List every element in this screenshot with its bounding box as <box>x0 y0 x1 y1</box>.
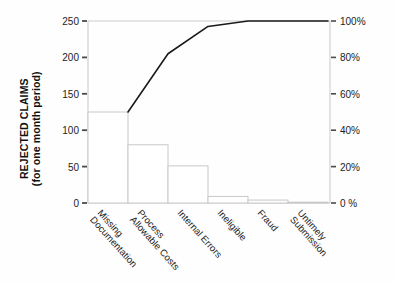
y-tick-label-0: 0 <box>73 198 79 209</box>
bar-0[interactable] <box>88 112 128 203</box>
bar-4[interactable] <box>248 200 288 203</box>
y-tick-label-1: 50 <box>68 161 79 172</box>
y-tick-label-2: 100 <box>62 125 79 136</box>
y2-tick-label-1: 20% <box>340 161 360 172</box>
y-tick-label-3: 150 <box>62 88 79 99</box>
y2-tick-label-4: 80% <box>340 52 360 63</box>
plot-area <box>0 0 395 284</box>
bar-3[interactable] <box>208 196 248 203</box>
y-tick-label-4: 200 <box>62 52 79 63</box>
bar-1[interactable] <box>128 145 168 203</box>
cumulative-line <box>128 21 328 112</box>
y2-tick-label-2: 40% <box>340 125 360 136</box>
bar-5[interactable] <box>288 202 328 203</box>
y2-tick-label-5: 100% <box>340 16 366 27</box>
y-tick-label-5: 250 <box>62 16 79 27</box>
bar-2[interactable] <box>168 166 208 203</box>
y2-tick-label-3: 60% <box>340 88 360 99</box>
y2-tick-label-0: 0 % <box>340 198 357 209</box>
pareto-chart: REJECTED CLAIMS (for one month period) 0… <box>0 0 395 284</box>
